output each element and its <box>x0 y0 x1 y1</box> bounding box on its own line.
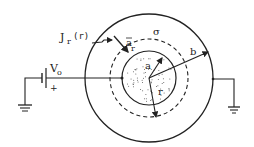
stipple-dot <box>163 82 164 83</box>
stipple-dot <box>140 60 141 61</box>
left-ground-icon <box>18 105 32 111</box>
stipple-dot <box>133 80 134 81</box>
stipple-dot <box>140 59 141 60</box>
contact-point <box>121 77 124 80</box>
stipple-dot <box>151 99 152 100</box>
stipple-dot <box>159 75 160 76</box>
label-current-density-arg: (r) <box>73 31 89 41</box>
left-ground-wire <box>25 78 42 105</box>
stipple-dot <box>143 58 144 59</box>
label-voltage-sub: o <box>57 68 62 77</box>
stipple-dot <box>135 73 136 74</box>
label-polarity: + <box>50 83 58 93</box>
stipple-dot <box>163 59 164 60</box>
stipple-dot <box>162 74 163 75</box>
stipple-dot <box>138 81 139 82</box>
radius-r-arrow <box>149 78 156 117</box>
stipple-dot <box>145 76 146 77</box>
stipple-dot <box>134 69 135 70</box>
stipple-dot <box>133 84 134 85</box>
stipple-dot <box>145 72 146 73</box>
stipple-dot <box>169 90 170 91</box>
right-ground-icon <box>228 107 240 113</box>
label-current-density-sub: r <box>67 37 71 46</box>
label-outer-radius: b <box>190 46 196 57</box>
stipple-dot <box>145 94 146 95</box>
stipple-dot <box>142 90 143 91</box>
stipple-dot <box>146 98 147 99</box>
stipple-dot <box>147 89 148 90</box>
label-current-density: J <box>59 31 64 44</box>
right-contact-point <box>212 78 215 81</box>
stipple-dot <box>133 82 134 83</box>
stipple-dot <box>142 80 143 81</box>
stipple-dot <box>133 71 134 72</box>
right-ground-wire <box>213 79 234 107</box>
stipple-dot <box>137 80 138 81</box>
stipple-dot <box>164 93 165 94</box>
stipple-dot <box>143 66 144 67</box>
stipple-dot <box>152 79 153 80</box>
stipple-dot <box>127 84 128 85</box>
stipple-dot <box>144 98 145 99</box>
stipple-dot <box>146 101 147 102</box>
stipple-dot <box>169 79 170 80</box>
stipple-dot <box>158 70 159 71</box>
stipple-dot <box>151 82 152 83</box>
stipple-dot <box>127 72 128 73</box>
stipple-dot <box>137 78 138 79</box>
stipple-dot <box>142 82 143 83</box>
stipple-dot <box>131 79 132 80</box>
stipple-dot <box>162 83 163 84</box>
stipple-dot <box>163 78 164 79</box>
label-radius-var: r <box>158 86 163 97</box>
current-density-leader <box>92 40 112 43</box>
stipple-dot <box>143 73 144 74</box>
stipple-dot <box>150 100 151 101</box>
stipple-dot <box>158 79 159 80</box>
diagram-canvas: J r (r) a r σ a b r V o + <box>0 0 254 147</box>
label-unit-vector-sub: r <box>131 44 135 53</box>
stipple-dot <box>143 78 144 79</box>
stipple-dot <box>128 86 129 87</box>
label-conductivity: σ <box>153 26 160 37</box>
stipple-dot <box>133 86 134 87</box>
stipple-dot <box>169 89 170 90</box>
label-inner-radius: a <box>145 60 151 71</box>
stipple-dot <box>156 86 157 87</box>
stipple-dot <box>160 98 161 99</box>
stipple-dot <box>140 89 141 90</box>
stipple-dot <box>137 59 138 60</box>
stipple-dot <box>136 68 137 69</box>
stipple-dot <box>150 58 151 59</box>
